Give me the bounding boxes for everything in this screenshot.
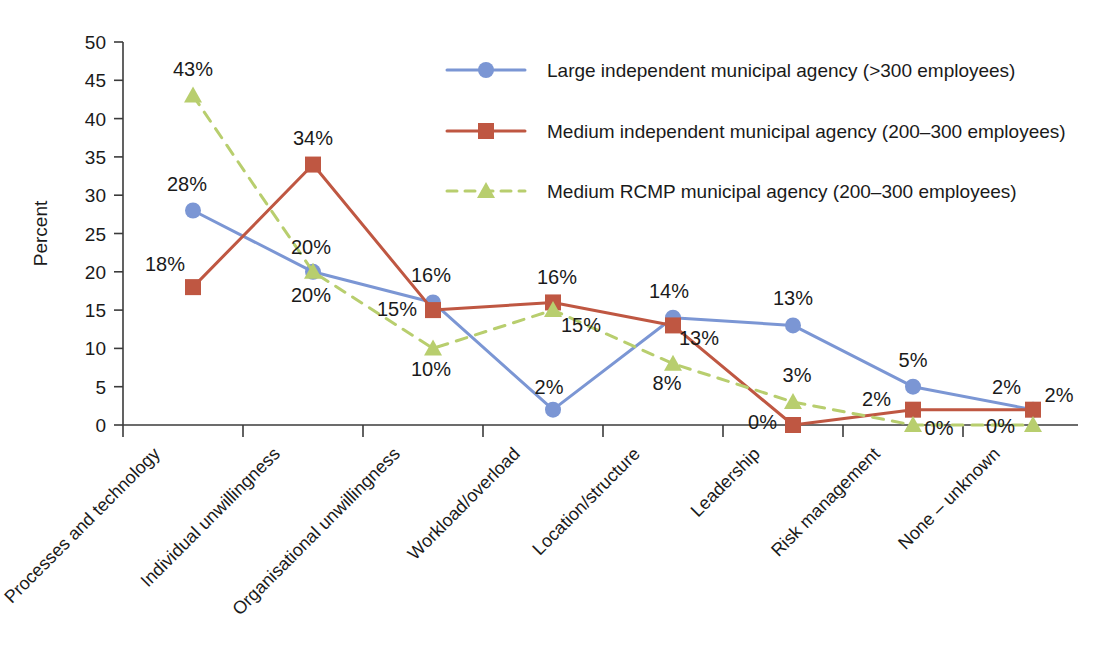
- data-point-label: 43%: [173, 58, 213, 80]
- data-point-label: 18%: [145, 253, 185, 275]
- data-point-label: 15%: [561, 314, 601, 336]
- chart-canvas: 05101520253035404550Percent 28%20%16%2%1…: [0, 0, 1103, 651]
- y-axis-tick-label: 15: [85, 300, 106, 321]
- data-point-label: 2%: [862, 388, 891, 410]
- series-marker-square: [905, 402, 921, 418]
- series-marker-triangle: [784, 393, 802, 409]
- y-axis-tick-label: 50: [85, 32, 106, 53]
- legend-marker-circle: [478, 62, 494, 78]
- y-axis-tick-label: 25: [85, 224, 106, 245]
- series-marker-square: [785, 417, 801, 433]
- data-point-label: 16%: [411, 264, 451, 286]
- y-axis: 05101520253035404550Percent: [30, 32, 123, 436]
- y-axis-title: Percent: [30, 200, 51, 266]
- series-marker-circle: [545, 402, 561, 418]
- x-axis-category-label: Risk management: [767, 444, 884, 561]
- y-axis-tick-label: 45: [85, 70, 106, 91]
- data-point-label: 13%: [773, 287, 813, 309]
- category-labels: Processes and technologyIndividual unwil…: [0, 444, 1003, 619]
- series-marker-square: [1025, 402, 1041, 418]
- series-marker-triangle: [1024, 416, 1042, 432]
- x-axis-category-label: Individual unwillingness: [137, 444, 284, 591]
- line-chart: 05101520253035404550Percent 28%20%16%2%1…: [0, 0, 1103, 651]
- series-marker-circle: [905, 379, 921, 395]
- chart-legend: Large independent municipal agency (>300…: [447, 60, 1066, 202]
- x-axis-category-label: Processes and technology: [0, 444, 163, 607]
- data-point-label: 16%: [537, 266, 577, 288]
- data-point-label: 14%: [649, 280, 689, 302]
- data-point-label: 20%: [291, 236, 331, 258]
- series-marker-triangle: [184, 87, 202, 103]
- data-point-label: 2%: [992, 376, 1021, 398]
- legend-marker-square: [478, 123, 494, 139]
- data-point-label: 8%: [653, 372, 682, 394]
- data-point-label: 28%: [167, 173, 207, 195]
- data-point-label: 2%: [1045, 384, 1074, 406]
- series-marker-circle: [185, 203, 201, 219]
- data-point-label: 15%: [377, 298, 417, 320]
- data-point-label: 3%: [783, 364, 812, 386]
- data-point-label: 5%: [899, 349, 928, 371]
- legend-entry-label: Medium RCMP municipal agency (200–300 em…: [547, 181, 1017, 202]
- data-point-label: 2%: [535, 376, 564, 398]
- data-point-label: 10%: [411, 358, 451, 380]
- y-axis-tick-label: 35: [85, 147, 106, 168]
- series-marker-circle: [785, 317, 801, 333]
- data-point-label: 20%: [291, 284, 331, 306]
- y-axis-tick-label: 40: [85, 109, 106, 130]
- legend-entry-label: Medium independent municipal agency (200…: [547, 121, 1066, 142]
- y-axis-tick-label: 20: [85, 262, 106, 283]
- series-marker-triangle: [664, 355, 682, 371]
- y-axis-tick-label: 0: [95, 415, 106, 436]
- series-marker-square: [425, 302, 441, 318]
- y-axis-tick-label: 5: [95, 377, 106, 398]
- x-axis-category-label: None – unknown: [894, 444, 1004, 554]
- legend-entry-label: Large independent municipal agency (>300…: [547, 60, 1015, 81]
- x-axis-category-label: Leadership: [687, 444, 764, 521]
- data-point-label: 0%: [986, 415, 1015, 437]
- data-point-label: 0%: [748, 411, 777, 433]
- data-point-label: 34%: [293, 127, 333, 149]
- y-axis-tick-label: 10: [85, 338, 106, 359]
- data-labels-layer: 28%20%16%2%14%13%5%2%18%34%15%16%13%0%2%…: [145, 58, 1074, 439]
- x-axis-category-label: Location/structure: [529, 444, 644, 559]
- series-marker-square: [185, 279, 201, 295]
- x-axis-category-label: Workload/overload: [404, 444, 524, 564]
- series-marker-square: [305, 157, 321, 173]
- data-point-label: 0%: [925, 417, 954, 439]
- y-axis-tick-label: 30: [85, 185, 106, 206]
- data-point-label: 13%: [679, 327, 719, 349]
